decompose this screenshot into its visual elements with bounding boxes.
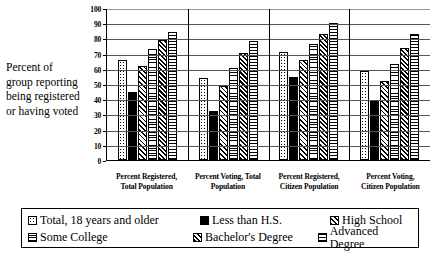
legend-swatch-icon	[28, 233, 37, 242]
legend-label: Less than H.S.	[212, 214, 282, 227]
legend-label: Total, 18 years and older	[40, 214, 159, 227]
bar	[128, 92, 137, 160]
legend-swatch-icon	[318, 233, 327, 242]
legend-label: Bachelor's Degree	[205, 231, 293, 244]
y-tick-label: 0	[97, 158, 101, 165]
y-tick-label: 60	[94, 66, 101, 73]
x-axis-label: Percent Voting, TotalPopulation	[187, 172, 268, 191]
y-tick-label: 10	[94, 142, 101, 149]
chart-legend: Total, 18 years and olderLess than H.S.H…	[21, 208, 419, 248]
y-tick-label: 80	[94, 36, 101, 43]
bar	[319, 34, 328, 160]
y-tick-label: 20	[94, 127, 101, 134]
bar	[148, 49, 157, 160]
x-axis-label-line: Citizen Population	[270, 182, 349, 192]
x-axis-label: Percent Registered,Citizen Population	[269, 172, 350, 191]
y-tick-label: 70	[94, 51, 101, 58]
bar	[380, 81, 389, 160]
x-axis-label: Percent Registered,Total Population	[106, 172, 187, 191]
legend-swatch-icon	[28, 216, 37, 225]
bar	[309, 44, 318, 160]
legend-swatch-icon	[193, 233, 202, 242]
legend-label: Advanced Degree	[330, 225, 412, 251]
y-tick-label: 100	[90, 6, 101, 13]
x-axis-label: Percent Voting,Citizen Population	[350, 172, 431, 191]
legend-row: Some CollegeBachelor's DegreeAdvanced De…	[28, 229, 412, 246]
group-separator	[269, 9, 270, 160]
x-axis-label-line: Citizen Population	[351, 182, 430, 192]
y-tick-label: 30	[94, 112, 101, 119]
legend-swatch-icon	[200, 216, 209, 225]
bar	[279, 52, 288, 160]
group-separator	[188, 9, 189, 160]
bar	[289, 77, 298, 160]
bar	[168, 32, 177, 160]
legend-item[interactable]: Total, 18 years and older	[28, 214, 200, 227]
x-axis-label-line: Percent Registered,	[107, 172, 186, 182]
legend-label: Some College	[40, 231, 108, 244]
legend-item[interactable]: Some College	[28, 231, 193, 244]
x-axis-label-line: Percent Registered,	[270, 172, 349, 182]
bar	[410, 34, 419, 160]
y-axis-ticks: 0102030405060708090100	[83, 9, 103, 161]
y-tick-label: 50	[94, 82, 101, 89]
x-axis-label-line: Population	[188, 182, 267, 192]
y-tick-label: 90	[94, 21, 101, 28]
chart-plot-area: 0102030405060708090100	[83, 9, 431, 169]
y-tick-mark	[103, 161, 106, 162]
x-axis-labels: Percent Registered,Total PopulationPerce…	[106, 172, 431, 191]
legend-item[interactable]: Less than H.S.	[200, 214, 330, 227]
bar	[209, 111, 218, 160]
bar	[199, 78, 208, 160]
bar	[329, 23, 338, 160]
chart-grid	[106, 9, 430, 161]
x-axis-label-line: Percent Voting, Total	[188, 172, 267, 182]
x-axis-label-line: Percent Voting,	[351, 172, 430, 182]
y-axis-caption: Percent of group reporting being registe…	[6, 60, 82, 118]
bar	[400, 48, 409, 160]
group-separator	[349, 9, 350, 160]
legend-item[interactable]: Bachelor's Degree	[193, 231, 318, 244]
y-tick-label: 40	[94, 97, 101, 104]
x-axis-label-line: Total Population	[107, 182, 186, 192]
bar	[219, 86, 228, 160]
legend-item[interactable]: Advanced Degree	[318, 225, 412, 251]
